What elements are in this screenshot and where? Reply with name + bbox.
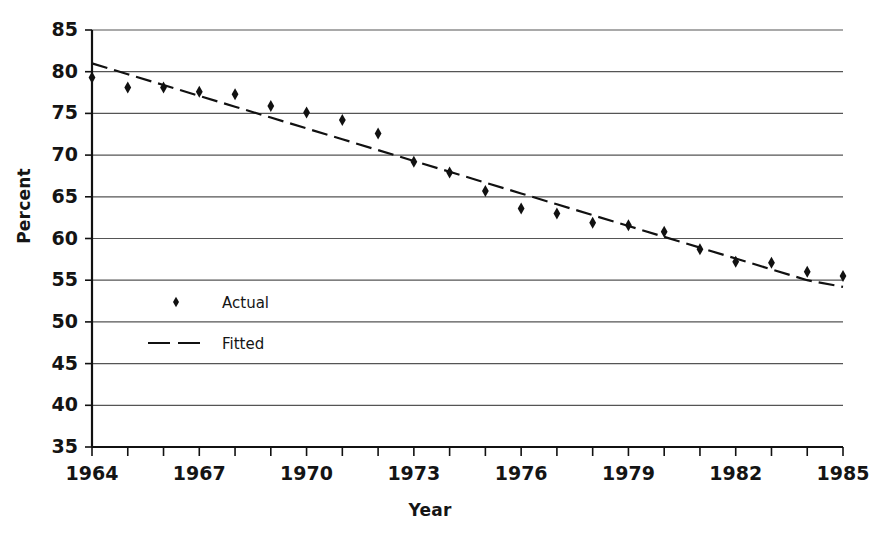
data-point-diamond [625,219,632,231]
data-point-diamond [804,266,811,278]
data-point-diamond [482,185,489,197]
data-point-diamond [554,207,561,219]
data-point-diamond [232,88,239,100]
data-point-diamond [375,127,382,139]
data-point-diamond [446,167,453,179]
data-point-diamond [267,100,274,112]
data-point-diamond [661,226,668,238]
data-point-diamond [89,72,96,84]
data-point-diamond [303,107,310,119]
series-line-fitted [92,63,843,287]
data-point-diamond [410,156,417,168]
legend-marker-diamond [173,297,179,307]
data-point-diamond [196,86,203,98]
legend-label-actual: Actual [222,296,269,311]
data-point-diamond [589,217,596,229]
data-point-diamond [518,202,525,214]
data-point-diamond [768,257,775,269]
legend-label-fitted: Fitted [222,337,264,352]
data-point-diamond [124,82,131,94]
data-point-diamond [339,114,346,126]
data-point-diamond [697,243,704,255]
